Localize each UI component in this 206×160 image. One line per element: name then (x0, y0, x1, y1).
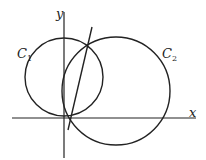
c2-label: C2 (162, 46, 177, 63)
diagram: y x C1 C2 (0, 0, 206, 160)
common-chord-line (68, 27, 92, 130)
y-axis-label: y (55, 6, 64, 21)
circle-c2 (62, 37, 170, 145)
x-axis-label: x (189, 105, 197, 120)
c1-label: C1 (17, 46, 32, 63)
